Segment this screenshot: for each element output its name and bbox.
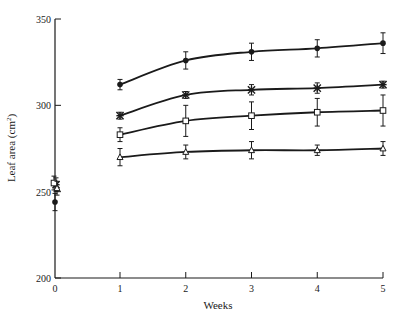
x-tick-label: 5 [381, 283, 386, 294]
x-tick-label: 2 [183, 283, 188, 294]
x-tick-label: 0 [53, 283, 58, 294]
open-square-marker [183, 118, 189, 124]
filled-circle-marker [117, 82, 123, 88]
y-tick-label: 200 [36, 273, 51, 284]
filled-circle-marker [249, 49, 255, 55]
x-tick-label: 3 [249, 283, 254, 294]
filled-circle-marker [314, 46, 320, 52]
series-star [52, 81, 386, 192]
y-tick-label: 350 [36, 14, 51, 25]
filled-circle-marker [380, 40, 386, 46]
series-open-square [51, 95, 386, 190]
open-square-marker [380, 108, 386, 114]
series-filled-circle [52, 33, 386, 211]
open-square-marker [249, 113, 255, 119]
y-tick-label: 250 [36, 187, 51, 198]
data-series [51, 33, 386, 211]
x-axis-label: Weeks [203, 299, 232, 311]
series-open-triangle [54, 142, 386, 196]
y-tick-label: 300 [36, 100, 51, 111]
x-tick-label: 4 [315, 283, 320, 294]
filled-circle-marker [183, 58, 189, 64]
leaf-area-chart: 200250300350012345 Weeks Leaf area (cm2) [0, 0, 394, 320]
filled-circle-marker [52, 199, 58, 205]
open-square-marker [117, 132, 123, 138]
open-square-marker [314, 109, 320, 115]
x-tick-label: 1 [118, 283, 123, 294]
y-axis-label: Leaf area (cm2) [5, 114, 18, 183]
